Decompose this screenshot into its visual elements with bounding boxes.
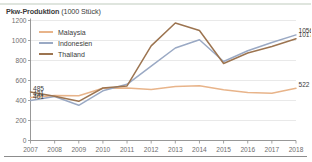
x-axis-tick-2013: 2013 [168, 146, 183, 153]
start-value-label-indonesien: 401 [33, 93, 44, 100]
y-axis-tick-1200: 1200 [12, 17, 27, 24]
x-axis-tick-2015: 2015 [216, 146, 231, 153]
legend-label-indonesien: Indonesien [58, 40, 92, 47]
x-axis-tick-2017: 2017 [265, 146, 280, 153]
end-value-label-thailand: 1017 [299, 31, 312, 38]
x-axis-tick-2007: 2007 [23, 146, 38, 153]
x-axis-tick-2018: 2018 [289, 146, 304, 153]
series-line-malaysia [31, 86, 297, 98]
x-axis-tick-2010: 2010 [96, 146, 111, 153]
end-value-label-malaysia: 522 [299, 81, 310, 88]
legend-label-thailand: Thailand [58, 51, 85, 58]
x-axis-tick-2011: 2011 [120, 146, 135, 153]
legend-item-indonesien: Indonesien [39, 38, 92, 48]
legend-item-thailand: Thailand [39, 49, 92, 59]
chart-card: Pkw-Produktion (1000 Stück) 020040060080… [0, 0, 311, 162]
x-axis-tick-2008: 2008 [47, 146, 62, 153]
legend-item-malaysia: Malaysia [39, 27, 92, 37]
y-axis-tick-0: 0 [23, 137, 27, 144]
y-axis-tick-1000: 1000 [12, 37, 27, 44]
legend-label-malaysia: Malaysia [58, 29, 86, 36]
bottom-divider [4, 156, 307, 157]
legend-swatch-indonesien [39, 42, 53, 44]
x-axis-tick-2012: 2012 [144, 146, 159, 153]
x-axis-tick-2016: 2016 [240, 146, 255, 153]
y-axis-tick-600: 600 [15, 77, 26, 84]
chart-legend: Malaysia Indonesien Thailand [39, 27, 92, 60]
x-axis-tick-2014: 2014 [192, 146, 207, 153]
y-axis-tick-800: 800 [15, 57, 26, 64]
y-axis-tick-200: 200 [15, 117, 26, 124]
y-axis-tick-400: 400 [15, 97, 26, 104]
line-chart-plot: 0200400600800100012002007200820092010201… [0, 0, 311, 162]
legend-swatch-thailand [39, 53, 53, 55]
legend-swatch-malaysia [39, 31, 53, 33]
x-axis-tick-2009: 2009 [71, 146, 86, 153]
